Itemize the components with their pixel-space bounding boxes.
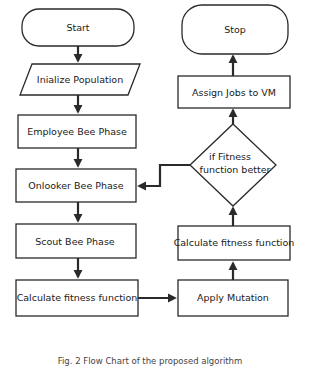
apply-mutation-node: Apply Mutation	[178, 280, 288, 316]
stop-label: Stop	[224, 24, 246, 35]
employee-bee-phase-label: Employee Bee Phase	[27, 126, 127, 137]
calculate-fitness-node-2: Calculate fitness function	[174, 226, 295, 260]
employee-bee-phase-node: Employee Bee Phase	[18, 115, 136, 148]
figure-caption: Fig. 2 Flow Chart of the proposed algori…	[58, 356, 243, 366]
start-node: Start	[22, 9, 134, 46]
initialize-population-label: Inialize Population	[37, 74, 123, 85]
onlooker-bee-phase-node: Onlooker Bee Phase	[16, 169, 136, 202]
calculate-fitness-label-1: Calculate fitness function	[17, 292, 138, 303]
edge-decision-onlooker	[139, 165, 190, 186]
assign-jobs-node: Assign Jobs to VM	[178, 76, 290, 108]
calculate-fitness-label-2: Calculate fitness function	[174, 237, 295, 248]
assign-jobs-label: Assign Jobs to VM	[192, 87, 276, 98]
flowchart-diagram: Start Inialize Population Employee Bee P…	[0, 0, 324, 370]
scout-bee-phase-node: Scout Bee Phase	[16, 224, 136, 258]
scout-bee-phase-label: Scout Bee Phase	[35, 236, 115, 247]
fitness-decision-node: if Fitness function better	[190, 124, 276, 206]
stop-node: Stop	[182, 5, 288, 54]
onlooker-bee-phase-label: Onlooker Bee Phase	[28, 180, 123, 191]
initialize-population-node: Inialize Population	[20, 64, 140, 95]
decision-label-line1: if Fitness	[209, 151, 251, 162]
apply-mutation-label: Apply Mutation	[197, 292, 269, 303]
decision-label-line2: function better	[200, 164, 271, 175]
start-label: Start	[66, 22, 89, 33]
calculate-fitness-node-1: Calculate fitness function	[16, 280, 138, 316]
